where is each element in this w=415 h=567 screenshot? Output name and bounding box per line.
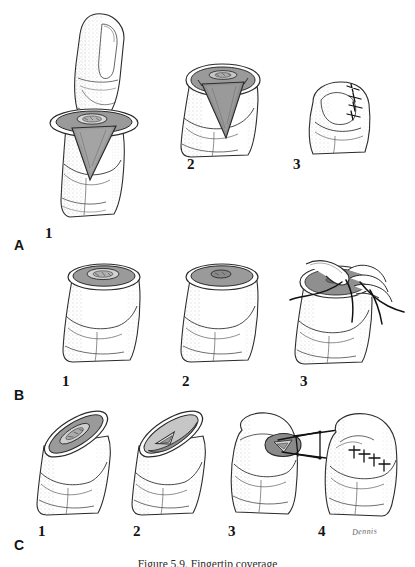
step-label-b1: 1: [62, 374, 70, 389]
artist-signature: Dennis: [352, 526, 378, 536]
distal-phalanx-outline: [72, 10, 124, 120]
panel-b3-suturing-with-needle-and-thread: [284, 256, 406, 366]
panel-a1-lateral-view-with-triangular-flap-marked: [28, 8, 168, 223]
panel-a2-flap-elevated-end-on-view: [168, 62, 274, 158]
amputation-surface: [68, 264, 140, 290]
step-label-c3: 3: [228, 524, 236, 539]
panel-b1-amputation-stump-end-on: [52, 258, 154, 364]
figure-caption: Figure 5.9. Fingertip coverage: [0, 558, 415, 567]
step-label-c1: 1: [38, 524, 46, 539]
row-label-b: B: [14, 388, 24, 402]
panel-b2-bone-rongeured: [170, 258, 272, 364]
digit-body: [228, 410, 300, 516]
panel-c1-oblique-defect: [28, 408, 124, 516]
panel-a3-sutured-closure: [287, 78, 391, 158]
row-label-c: C: [14, 538, 24, 552]
step-label-b2: 2: [182, 374, 190, 389]
step-label-c2: 2: [133, 524, 141, 539]
surgical-figure: 1 2 3 1 2 3 1 2 3 4 A B C Dennis Figure …: [0, 0, 415, 567]
panel-c2-flap-design: [123, 408, 219, 516]
amputation-surface-bone-trimmed: [186, 264, 258, 290]
step-label-a1: 1: [45, 226, 53, 241]
closed-stump-outline: [305, 78, 375, 158]
step-label-b3: 3: [300, 374, 308, 389]
step-label-a2: 2: [187, 157, 195, 172]
step-label-a3: 3: [293, 157, 301, 172]
row-label-a: A: [14, 238, 24, 252]
panel-c4-final-sutured-result: [310, 408, 410, 518]
step-label-c4: 4: [318, 524, 326, 539]
